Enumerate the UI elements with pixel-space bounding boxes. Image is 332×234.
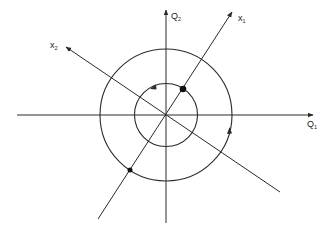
outer-point bbox=[128, 168, 133, 173]
phase-diagram: Q2 x1 x2 Q1 bbox=[0, 0, 332, 234]
q1-label: Q1 bbox=[307, 119, 317, 130]
q2-label: Q2 bbox=[171, 11, 181, 22]
x1-label: x1 bbox=[238, 13, 246, 24]
x2-label: x2 bbox=[50, 40, 58, 51]
inner-point bbox=[180, 86, 187, 93]
x2-axis bbox=[66, 47, 280, 192]
